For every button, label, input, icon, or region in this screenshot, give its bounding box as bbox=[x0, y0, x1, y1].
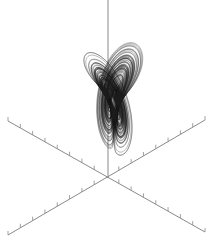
trajectory-path bbox=[84, 43, 143, 156]
attractor-trajectory bbox=[84, 43, 143, 156]
lorenz-attractor-plot bbox=[0, 0, 210, 237]
